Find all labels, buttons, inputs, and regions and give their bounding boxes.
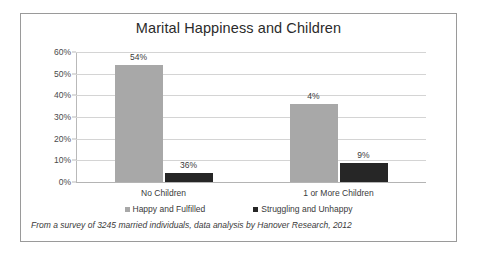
y-axis-tick-label: 50%	[54, 69, 71, 79]
chart-legend: Happy and Fulfilled Struggling and Unhap…	[21, 204, 456, 214]
legend-item-happy: Happy and Fulfilled	[125, 204, 206, 214]
y-axis-tick-mark	[72, 52, 76, 53]
chart-title: Marital Happiness and Children	[21, 20, 456, 36]
gridline	[76, 182, 426, 183]
plot-area: 60%50%40%30%20%10%0%54%36%4%9%	[76, 52, 426, 182]
legend-item-struggling: Struggling and Unhappy	[253, 204, 352, 214]
legend-label-struggling: Struggling and Unhappy	[261, 204, 352, 214]
bar-value-label: 9%	[357, 150, 369, 160]
y-axis-tick-label: 60%	[54, 47, 71, 57]
category-label: 1 or More Children	[303, 188, 373, 198]
y-axis-tick-mark	[72, 73, 76, 74]
legend-swatch-icon-happy	[125, 207, 130, 212]
y-axis-tick-mark	[72, 138, 76, 139]
y-axis-tick-mark	[72, 182, 76, 183]
bar-value-label: 54%	[130, 52, 147, 62]
y-axis-tick-mark	[72, 117, 76, 118]
bar-value-label: 4%	[307, 91, 319, 101]
gridline	[76, 52, 426, 53]
y-axis-tick-label: 40%	[54, 90, 71, 100]
y-axis-tick-label: 30%	[54, 112, 71, 122]
chart-footnote: From a survey of 3245 married individual…	[31, 220, 352, 230]
legend-label-happy: Happy and Fulfilled	[133, 204, 206, 214]
bar-happy	[290, 104, 338, 182]
bar-value-label: 36%	[180, 160, 197, 170]
bar-struggling	[340, 163, 388, 183]
category-label: No Children	[141, 188, 186, 198]
bar-struggling	[165, 173, 213, 182]
y-axis-tick-mark	[72, 160, 76, 161]
y-axis-tick-mark	[72, 95, 76, 96]
y-axis-tick-label: 10%	[54, 155, 71, 165]
bar-happy	[115, 65, 163, 182]
legend-swatch-icon-struggling	[253, 207, 258, 212]
y-axis-tick-label: 0%	[59, 177, 71, 187]
y-axis-tick-label: 20%	[54, 134, 71, 144]
chart-container: Marital Happiness and Children 60%50%40%…	[20, 13, 457, 242]
